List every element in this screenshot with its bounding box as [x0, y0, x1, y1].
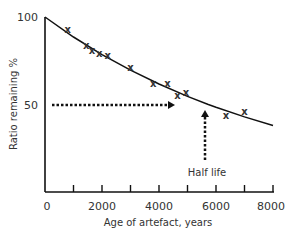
- data-point-x-marker: x: [164, 78, 171, 89]
- right-arrowhead-icon: [168, 101, 175, 109]
- data-point-x-marker: x: [150, 78, 157, 89]
- half-life-annotations: Half life: [52, 101, 226, 178]
- data-point-x-marker: x: [127, 62, 134, 73]
- data-point-x-marker: x: [89, 45, 96, 56]
- y-tick-100: 100: [17, 11, 38, 24]
- up-arrowhead-icon: [201, 110, 209, 117]
- half-life-label: Half life: [188, 167, 226, 178]
- data-point-x-marker: x: [104, 50, 111, 61]
- x-tick-0: 0: [44, 200, 51, 213]
- x-tick-2000: 2000: [88, 200, 116, 213]
- y-axis-label: Ratio remaining %: [8, 58, 19, 150]
- x-tick-4000: 4000: [145, 200, 173, 213]
- data-point-x-marker: x: [65, 24, 72, 35]
- decay-chart: 100 50 Ratio remaining % 0 2000 4000 600…: [0, 0, 295, 236]
- data-point-x-marker: x: [174, 90, 181, 101]
- x-tick-6000: 6000: [202, 200, 230, 213]
- x-axis: 0 2000 4000 6000 8000 Age of artefact, y…: [44, 192, 286, 228]
- x-tick-marks: [74, 185, 274, 192]
- y-tick-50: 50: [24, 99, 38, 112]
- data-point-x-marker: x: [241, 106, 248, 117]
- y-axis: 100 50 Ratio remaining %: [8, 11, 45, 192]
- data-point-x-marker: x: [223, 110, 230, 121]
- data-point-x-marker: x: [183, 87, 190, 98]
- decay-curve: [45, 17, 273, 126]
- x-axis-label: Age of artefact, years: [104, 217, 213, 228]
- data-point-x-marker: x: [96, 48, 103, 59]
- x-tick-8000: 8000: [257, 200, 285, 213]
